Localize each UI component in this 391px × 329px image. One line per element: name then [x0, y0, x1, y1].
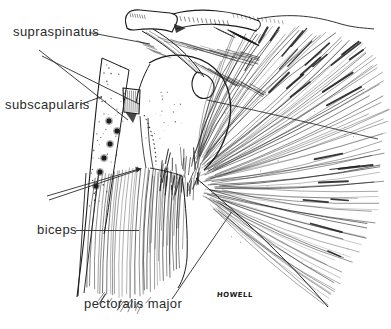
pectoralis-major-leader-line — [172, 212, 232, 299]
coracoacromial-ligament — [142, 29, 204, 77]
supraspinatus-muscle-fibers — [137, 37, 260, 65]
label-pectoralis-major: pectoralis major — [84, 297, 182, 311]
pectoralis-major-fan-fibers — [193, 26, 389, 305]
biceps-muscle-fibers — [87, 167, 186, 314]
anatomy-figure: supraspinatus subscapularis biceps pecto… — [0, 0, 391, 329]
artist-signature: HOWELL — [217, 291, 253, 299]
biceps-tendon — [140, 116, 153, 168]
clavicle-acromion-bones — [125, 10, 260, 33]
leader-lines — [39, 33, 232, 300]
biceps-pointer-line-b — [49, 170, 140, 200]
label-subscapularis: subscapularis — [5, 98, 90, 112]
shoulder-illustration — [0, 0, 391, 329]
biceps-pointer-arrowhead — [136, 167, 143, 172]
label-supraspinatus: supraspinatus — [13, 25, 99, 39]
label-biceps: biceps — [37, 223, 77, 237]
